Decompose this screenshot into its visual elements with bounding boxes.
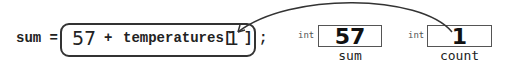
statement-terminator: ; xyxy=(259,30,267,46)
variable-value-box: 57 xyxy=(318,25,382,47)
variable-type-label: int xyxy=(298,30,314,40)
expression-close-bracket: ] xyxy=(244,30,252,46)
expression-literal: 57 xyxy=(72,27,96,49)
expression-index-value: 1 xyxy=(227,27,239,49)
variable-name-label: count xyxy=(427,48,492,63)
variable-type-label: int xyxy=(408,30,424,40)
variable-value-box: 1 xyxy=(427,25,492,47)
lhs-label: sum = xyxy=(16,30,58,46)
expression-array-name: temperatures[ xyxy=(123,30,232,46)
variable-name-label: sum xyxy=(318,48,382,63)
expression-operator: + xyxy=(104,30,112,46)
